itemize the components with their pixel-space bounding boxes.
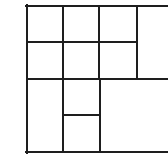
grid-diagram [0, 0, 168, 160]
